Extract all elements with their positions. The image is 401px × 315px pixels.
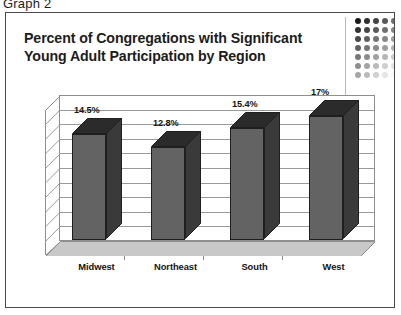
dot-icon	[364, 18, 370, 24]
dot-icon	[373, 27, 379, 33]
dot-icon	[373, 45, 379, 51]
axis-tick	[282, 256, 283, 260]
dot-icon	[382, 27, 388, 33]
category-label-west: West	[295, 261, 372, 272]
bar-west[interactable]	[309, 101, 343, 240]
dot-icon	[391, 72, 395, 78]
bar-front-face	[72, 134, 106, 240]
dot-icon	[355, 63, 361, 69]
dot-grid-separator	[345, 17, 346, 95]
category-label-northeast: Northeast	[137, 261, 214, 272]
bar-side-face	[106, 118, 122, 240]
dot-icon	[373, 72, 379, 78]
dot-icon	[355, 54, 361, 60]
figure-caption: Graph 2	[3, 0, 51, 11]
chart-title-line-1: Percent of Congregations with Significan…	[24, 29, 324, 47]
chart-title: Percent of Congregations with Significan…	[24, 29, 324, 65]
bar-top-face	[151, 131, 201, 148]
bar-front-face	[151, 147, 185, 240]
bar-northeast[interactable]	[151, 132, 185, 240]
dot-icon	[382, 45, 388, 51]
chart-title-line-2: Young Adult Participation by Region	[24, 47, 324, 65]
bar-south[interactable]	[230, 113, 264, 240]
category-label-midwest: Midwest	[58, 261, 135, 272]
slide-frame: Percent of Congregations with Significan…	[5, 12, 395, 308]
dot-icon	[364, 63, 370, 69]
bar-midwest[interactable]	[72, 119, 106, 240]
dot-icon	[373, 18, 379, 24]
bar-front-face	[230, 128, 264, 240]
dot-icon	[391, 45, 395, 51]
dot-icon	[382, 63, 388, 69]
bar-value-label: 14.5%	[74, 105, 100, 115]
dot-icon	[355, 72, 361, 78]
dot-icon	[355, 18, 361, 24]
dot-icon	[364, 54, 370, 60]
dot-icon	[355, 36, 361, 42]
category-label-south: South	[216, 261, 293, 272]
bar-value-label: 17%	[311, 87, 329, 97]
bar-side-face	[264, 112, 280, 240]
dot-icon	[382, 54, 388, 60]
axis-tick	[124, 256, 125, 260]
chart-floor	[45, 241, 375, 256]
chart-left-wall	[45, 95, 60, 255]
dot-icon	[391, 27, 395, 33]
axis-tick	[203, 256, 204, 260]
dot-icon	[364, 45, 370, 51]
dot-icon	[382, 36, 388, 42]
dot-icon	[364, 72, 370, 78]
dot-icon	[373, 63, 379, 69]
dot-icon	[382, 18, 388, 24]
bar-top-face	[309, 100, 359, 117]
dot-icon	[373, 36, 379, 42]
dot-grid-decoration-icon	[354, 17, 395, 80]
dot-icon	[355, 27, 361, 33]
dot-icon	[364, 36, 370, 42]
dot-icon	[391, 18, 395, 24]
bar-top-face	[230, 112, 280, 129]
chart-plot-area: 14.5%12.8%15.4%17%	[45, 95, 375, 255]
bar-value-label: 15.4%	[232, 99, 258, 109]
bar-front-face	[309, 116, 343, 240]
bar-top-face	[72, 118, 122, 135]
dot-icon	[373, 54, 379, 60]
chart-category-axis: MidwestNortheastSouthWest	[45, 261, 375, 277]
dot-icon	[391, 36, 395, 42]
dot-icon	[355, 45, 361, 51]
dot-icon	[364, 27, 370, 33]
dot-icon	[382, 72, 388, 78]
bar-side-face	[343, 100, 359, 240]
bar-value-label: 12.8%	[153, 118, 179, 128]
dot-icon	[391, 54, 395, 60]
dot-icon	[391, 63, 395, 69]
